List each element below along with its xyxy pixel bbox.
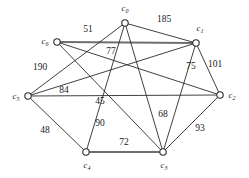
edge-weight-c1-c2: 101 <box>208 59 223 69</box>
edge-weight-c2-c3: 93 <box>195 123 205 133</box>
graph-node-c5[interactable] <box>25 93 31 99</box>
graph-diagram: 51185771017519084459068487293 c0c1c2c3c4… <box>0 0 249 178</box>
edge-weight-c1-c3: 75 <box>186 61 196 71</box>
graph-edge-c6-c1 <box>60 42 193 43</box>
graph-edge-c5-c2 <box>31 95 217 96</box>
node-label-sub-c5: 5 <box>16 96 19 102</box>
graph-node-c3[interactable] <box>160 149 166 155</box>
graph-edge-c4-c0 <box>87 26 124 149</box>
node-label-c4: c4 <box>84 160 91 171</box>
graph-canvas: 51185771017519084459068487293 c0c1c2c3c4… <box>0 0 249 178</box>
node-label-sub-c3: 3 <box>163 165 167 171</box>
node-label-c1: c1 <box>197 23 204 34</box>
node-label-sub-c1: 1 <box>200 28 203 34</box>
node-label-c5: c5 <box>13 91 20 102</box>
node-label-sub-c2: 2 <box>232 95 235 101</box>
edge-weight-c4-c3: 72 <box>119 137 129 147</box>
edge-weight-c4-c0: 90 <box>95 118 105 128</box>
edge-weight-c0-c1: 185 <box>157 14 172 24</box>
edge-weight-c5-c0: 84 <box>59 85 69 95</box>
node-label-c6: c6 <box>42 36 49 47</box>
edge-weight-c5-c1: 190 <box>33 62 48 72</box>
edge-weight-c0-c3: 68 <box>158 109 168 119</box>
graph-node-c4[interactable] <box>83 149 89 155</box>
edge-weight-c6-c3: 45 <box>95 96 105 106</box>
node-label-sub-c6: 6 <box>45 41 48 47</box>
graph-node-c6[interactable] <box>54 39 60 45</box>
node-label-c2: c2 <box>229 90 236 101</box>
node-label-sub-c4: 4 <box>87 165 90 171</box>
graph-node-c2[interactable] <box>217 92 223 98</box>
graph-edge-c1-c2 <box>197 46 218 92</box>
edge-weight-c5-c4: 48 <box>40 125 50 135</box>
node-label-sub-c0: 0 <box>125 8 128 14</box>
node-label-c3: c3 <box>161 160 168 171</box>
graph-edge-c6-c3 <box>59 44 161 149</box>
graph-edge-c2-c3 <box>165 97 217 149</box>
graph-edge-c0-c3 <box>126 26 162 149</box>
graph-edge-c0-c1 <box>128 24 193 42</box>
node-label-c0: c0 <box>122 3 129 14</box>
graph-node-c1[interactable] <box>193 40 199 46</box>
edge-labels-layer: 51185771017519084459068487293 <box>33 14 223 147</box>
edge-weight-c6-c2: 77 <box>106 46 116 56</box>
edge-weight-c6-c1: 51 <box>83 24 93 34</box>
graph-node-c0[interactable] <box>122 20 128 26</box>
graph-edge-c5-c4 <box>30 98 83 150</box>
